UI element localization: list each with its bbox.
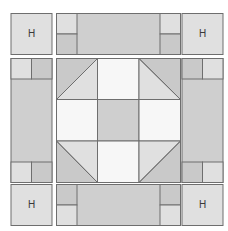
corner-label-bottom-left: H <box>22 200 42 210</box>
border-strip-right <box>182 59 223 183</box>
corner-label-top-left: H <box>22 29 42 39</box>
corner-label-bottom-right: H <box>193 200 213 210</box>
corner-label-top-right: H <box>193 29 213 39</box>
center-cell-top-middle <box>98 59 140 100</box>
center-cell-bottom-middle <box>98 141 140 183</box>
center-block <box>57 59 181 183</box>
border-strip-left <box>11 59 52 183</box>
center-cell-middle-right <box>139 100 181 142</box>
center-cell-middle-left <box>57 100 98 142</box>
border-strip-bottom <box>57 185 181 226</box>
border-strip-top <box>57 14 181 55</box>
center-cell-center <box>98 100 140 142</box>
